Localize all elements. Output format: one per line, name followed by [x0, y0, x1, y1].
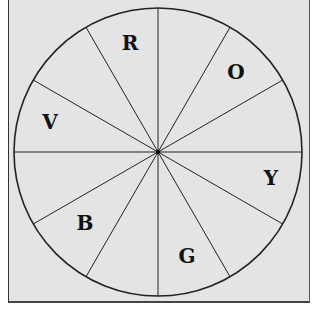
- label-r: R: [122, 31, 139, 55]
- label-v: V: [41, 110, 58, 134]
- wheel-radius-line: [158, 27, 230, 152]
- label-b: B: [77, 211, 94, 235]
- wheel-labels: R O Y G B V: [41, 31, 279, 268]
- label-g: G: [178, 244, 195, 268]
- wheel-radius-line: [86, 152, 158, 277]
- wheel-lines: [14, 8, 302, 296]
- center-point: [156, 150, 160, 154]
- wheel-radius-line: [158, 80, 283, 152]
- color-wheel: R O Y G B V: [0, 0, 312, 311]
- wheel-radius-line: [33, 152, 158, 224]
- label-o: O: [227, 60, 244, 84]
- label-y: Y: [263, 166, 279, 190]
